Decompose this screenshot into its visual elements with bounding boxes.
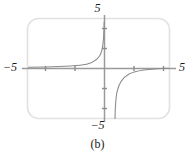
curve-left-branch: [29, 22, 105, 67]
figure-container: 5 −5 −5 5 (b): [0, 0, 195, 161]
figure-caption: (b): [0, 138, 195, 150]
x-axis-max-label: 5: [179, 61, 185, 73]
y-axis-min-label: −5: [0, 119, 195, 131]
y-axis-max-label: 5: [0, 2, 195, 14]
curve-right-branch: [115, 68, 169, 118]
x-axis-min-label: −5: [3, 61, 17, 73]
